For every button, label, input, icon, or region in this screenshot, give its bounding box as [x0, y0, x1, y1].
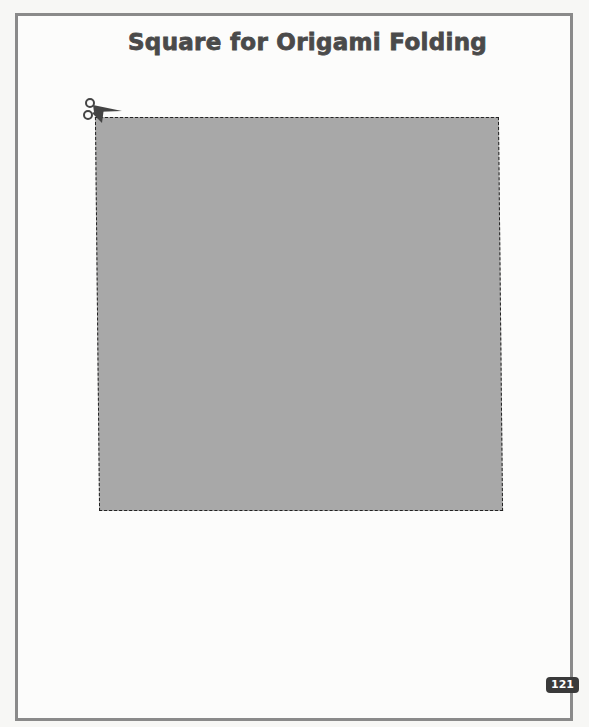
- page-number-badge: 121: [546, 677, 579, 693]
- scissors-icon: [82, 97, 122, 123]
- origami-square-cutout: [95, 117, 503, 511]
- page-title: Square for Origami Folding: [128, 29, 508, 55]
